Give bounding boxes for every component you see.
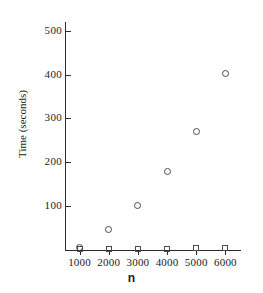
y-tick-label-text: 500 <box>24 25 62 36</box>
scatter-plot-figure: 100200300400500 100020003000400050006000… <box>0 0 263 293</box>
y-tick-label-text: 100 <box>24 200 62 211</box>
data-point-marker <box>222 70 229 77</box>
x-axis-line <box>65 250 241 251</box>
y-tick-label-text: 300 <box>24 112 62 123</box>
data-point-marker <box>106 246 112 252</box>
y-tick-label: 500 <box>18 25 62 36</box>
plot-area <box>65 22 240 250</box>
y-axis-label: Time (seconds) <box>16 64 28 184</box>
data-point-marker <box>135 246 141 252</box>
data-point-marker <box>193 245 199 251</box>
data-point-marker <box>164 246 170 252</box>
x-tick-label: 6000 <box>205 256 245 268</box>
data-point-marker <box>77 246 83 252</box>
data-point-marker <box>222 245 228 251</box>
y-tick-label-text: 400 <box>24 69 62 80</box>
y-tick-label: 100 <box>18 200 62 211</box>
x-axis-label: n <box>0 271 263 285</box>
y-tick-label-text: 200 <box>24 156 62 167</box>
data-point-marker <box>193 128 200 135</box>
